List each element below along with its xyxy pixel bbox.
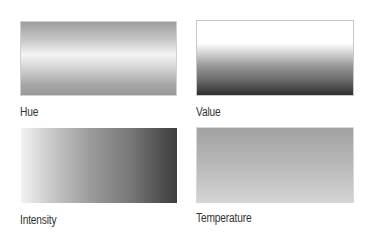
value-label: Value <box>196 105 220 119</box>
intensity-swatch <box>21 128 177 203</box>
temperature-swatch <box>196 127 354 203</box>
hue-swatch <box>20 21 177 96</box>
temperature-label: Temperature <box>196 211 251 225</box>
intensity-label: Intensity <box>20 213 56 227</box>
hue-label: Hue <box>20 105 38 119</box>
value-swatch <box>196 20 354 96</box>
